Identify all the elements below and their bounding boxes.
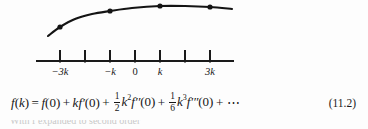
term-3-fraction: 16 <box>169 92 176 113</box>
equation-lhs: f(k) <box>11 95 29 111</box>
sample-marker-2 <box>157 3 162 8</box>
equation-number: (11.2) <box>329 89 356 117</box>
cropped-bottom-strip: With f expanded to second order <box>0 120 368 129</box>
term-2-fraction: 12 <box>114 92 121 113</box>
taylor-series-equation: f(k) = f(0) + kf′(0) + 12k2f′′(0) + 16k3… <box>11 89 241 117</box>
tick-label-0: −3k <box>52 65 69 78</box>
plus-sign-3: + <box>155 95 167 111</box>
sampled-curve <box>48 6 232 36</box>
term-1: kf′(0) <box>73 95 100 111</box>
term-3-denominator: 6 <box>169 102 176 113</box>
taylor-expansion-sampling-figure: −3k−k0k3k <box>0 0 368 86</box>
tick-label-2: −k <box>104 65 116 78</box>
plus-sign-4: + <box>213 95 225 111</box>
sample-marker-0 <box>57 24 62 29</box>
term-2: 12k2f′′(0) <box>112 92 155 113</box>
term-3: 16k3f′′′(0) <box>168 92 214 113</box>
tick-label-3: 0 <box>132 65 137 78</box>
sample-marker-1 <box>107 8 112 13</box>
equals-sign: = <box>29 95 41 111</box>
term-2-denominator: 2 <box>114 102 121 113</box>
tick-label-4: k <box>158 65 163 78</box>
figure-page: −3k−k0k3k f(k) = f(0) + kf′(0) + 12k2f′′… <box>0 0 368 129</box>
tick-label-6: 3k <box>205 65 215 78</box>
cropped-bottom-text: With f expanded to second order <box>10 120 140 126</box>
sample-marker-3 <box>207 4 212 9</box>
ellipsis: ⋯ <box>226 95 241 111</box>
equation-row: f(k) = f(0) + kf′(0) + 12k2f′′(0) + 16k3… <box>0 89 368 117</box>
term-2-numerator: 1 <box>114 92 121 102</box>
plus-sign-1: + <box>60 95 72 111</box>
term-0: f(0) <box>41 95 60 111</box>
curve-path <box>48 6 232 36</box>
horizontal-axis <box>36 50 234 63</box>
term-3-numerator: 1 <box>169 92 176 102</box>
plus-sign-2: + <box>100 95 112 111</box>
